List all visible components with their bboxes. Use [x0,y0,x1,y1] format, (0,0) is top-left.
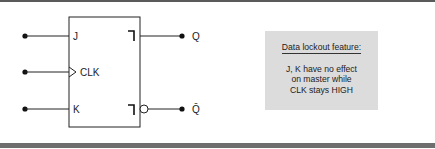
callout-title: Data lockout feature: [282,42,361,54]
bottom-rule [0,143,435,148]
callout-line: on master while [265,74,378,85]
input-clk: CLK [22,67,99,78]
pin-label-q: Q [192,31,200,42]
pin-label-q-bar: Q̄ [192,103,200,115]
data-lockout-callout: Data lockout feature: J, K have no effec… [265,31,378,110]
pin-label-j: J [73,31,78,42]
inversion-bubble-icon [140,105,148,113]
callout-line: CLK stays HIGH [265,85,378,96]
terminal-dot-icon [179,33,184,38]
pin-label-k: K [73,104,80,115]
pin-label-clk: CLK [80,67,100,78]
terminal-dot-icon [179,106,184,111]
callout-line: J, K have no effect [265,64,378,75]
